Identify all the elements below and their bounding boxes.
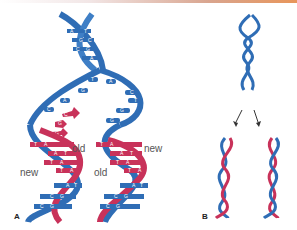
label-left-new: new xyxy=(20,167,39,178)
svg-text:G: G xyxy=(79,37,83,43)
svg-text:T: T xyxy=(74,182,77,188)
svg-text:T: T xyxy=(140,182,143,188)
svg-text:T: T xyxy=(116,159,119,165)
label-left-old: old xyxy=(72,143,85,154)
svg-text:G: G xyxy=(120,107,124,113)
svg-text:G: G xyxy=(124,193,128,199)
svg-text:C: C xyxy=(130,89,134,95)
label-right-old: old xyxy=(94,167,107,178)
svg-text:C: C xyxy=(106,203,110,209)
svg-text:T: T xyxy=(50,159,53,165)
svg-text:T: T xyxy=(34,141,37,147)
panel-b-arrows xyxy=(233,110,261,127)
parent-helix: AT GC CG A xyxy=(60,14,103,70)
svg-text:T: T xyxy=(130,150,133,156)
svg-text:C: C xyxy=(76,46,80,52)
svg-text:G: G xyxy=(50,203,54,209)
svg-text:T: T xyxy=(91,76,94,82)
incoming-nucleotides: G C G xyxy=(52,107,80,138)
panel-b-right-daughter xyxy=(264,138,279,218)
svg-text:C: C xyxy=(50,193,54,199)
panel-label-a: A xyxy=(14,212,20,221)
svg-text:C: C xyxy=(64,111,68,117)
svg-text:G: G xyxy=(60,193,64,199)
svg-text:C: C xyxy=(114,193,118,199)
svg-text:C: C xyxy=(88,37,92,43)
svg-text:T: T xyxy=(100,141,103,147)
svg-text:G: G xyxy=(110,117,114,123)
svg-text:G: G xyxy=(58,120,62,126)
svg-text:G: G xyxy=(116,203,120,209)
svg-text:T: T xyxy=(60,167,63,173)
label-right-new: new xyxy=(144,143,163,154)
dna-replication-diagram: AT GC CG A T G A C A C T G G G C G xyxy=(0,0,297,230)
svg-text:C: C xyxy=(47,106,51,112)
svg-text:T: T xyxy=(128,167,131,173)
fork-right-arm: A C T G G xyxy=(100,70,142,125)
svg-text:G: G xyxy=(81,87,85,93)
svg-text:C: C xyxy=(40,203,44,209)
panel-b-left-daughter xyxy=(216,138,232,218)
svg-text:T: T xyxy=(64,150,67,156)
panel-label-b: B xyxy=(202,212,208,221)
svg-text:T: T xyxy=(134,97,137,103)
svg-text:G: G xyxy=(86,46,90,52)
panel-b-parent-helix xyxy=(240,15,259,90)
svg-text:T: T xyxy=(84,28,87,34)
